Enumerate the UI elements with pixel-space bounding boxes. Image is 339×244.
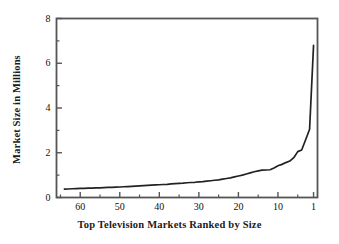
data-line-series [64,45,313,189]
chart-figure: Market Size in Millions Top Television M… [0,0,339,244]
plot-area [0,0,339,244]
plot-frame [57,19,318,198]
axis-ticks [57,19,314,198]
series-market-size [64,45,313,189]
